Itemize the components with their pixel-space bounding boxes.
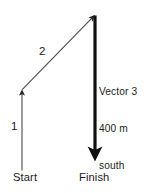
vector-diagram-figure: 1 2 Vector 3 400 m south Start Finish xyxy=(0,0,144,193)
vector-2-arrow xyxy=(22,17,92,89)
vector-2-label: 2 xyxy=(39,45,46,59)
finish-point-label: Finish xyxy=(79,171,109,184)
vector-1-label: 1 xyxy=(11,120,18,134)
start-point-label: Start xyxy=(13,171,37,184)
vector-3-label-line-2: 400 m xyxy=(99,123,137,135)
vector-3-label-line-1: Vector 3 xyxy=(99,86,137,98)
